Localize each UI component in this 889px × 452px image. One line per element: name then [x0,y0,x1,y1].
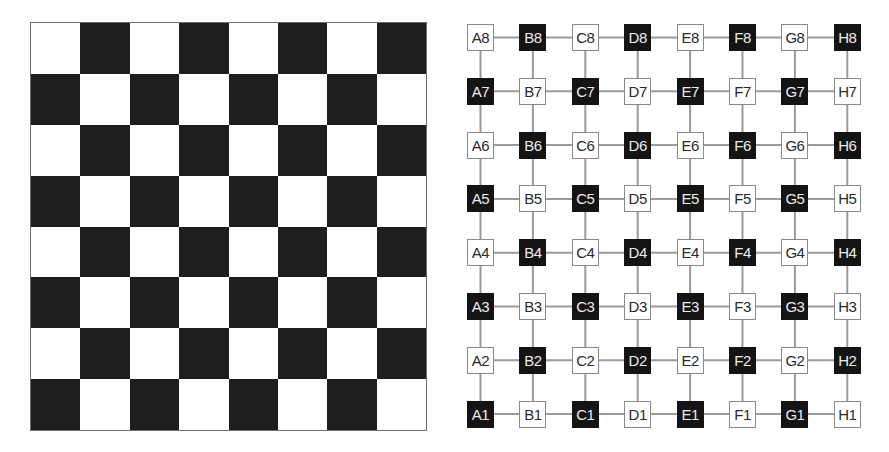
graph-node-b6: B6 [519,132,546,159]
board-square-d6 [179,125,228,176]
board-square-h1 [377,379,426,430]
graph-node-c5: C5 [572,185,599,212]
board-square-f6 [278,125,327,176]
node-label: C7 [576,84,594,99]
graph-node-h8: H8 [834,24,861,51]
board-square-h6 [377,125,426,176]
board-square-g8 [327,23,376,74]
node-label: D8 [629,30,647,45]
graph-node-g7: G7 [781,78,808,105]
graph-node-d5: D5 [624,185,651,212]
board-square-b7 [80,74,129,125]
graph-node-h1: H1 [834,401,861,428]
board-square-b2 [80,328,129,379]
board-square-e3 [229,277,278,328]
board-square-e5 [229,176,278,227]
node-label: C1 [576,407,594,422]
board-square-g1 [327,379,376,430]
board-square-e1 [229,379,278,430]
node-label: A2 [472,353,489,368]
graph-node-g5: G5 [781,185,808,212]
node-label: C5 [576,191,594,206]
node-label: D5 [629,191,647,206]
graph-node-f4: F4 [729,239,756,266]
node-label: B7 [524,84,541,99]
graph-node-a3: A3 [467,293,494,320]
graph-node-a4: A4 [467,239,494,266]
board-square-f4 [278,227,327,278]
board-square-h5 [377,176,426,227]
board-square-b8 [80,23,129,74]
graph-node-f3: F3 [729,293,756,320]
graph-node-c3: C3 [572,293,599,320]
node-label: D7 [629,84,647,99]
node-label: C2 [576,353,594,368]
board-square-c8 [130,23,179,74]
graph-node-a8: A8 [467,24,494,51]
board-square-e6 [229,125,278,176]
board-square-a2 [31,328,80,379]
node-label: A3 [472,299,489,314]
node-label: F3 [734,299,751,314]
graph-node-g3: G3 [781,293,808,320]
graph-node-h2: H2 [834,347,861,374]
node-label: H5 [838,191,856,206]
graph-node-a5: A5 [467,185,494,212]
graph-node-e5: E5 [677,185,704,212]
node-label: E4 [681,245,698,260]
graph-node-g8: G8 [781,24,808,51]
node-label: D2 [629,353,647,368]
graph-node-g1: G1 [781,401,808,428]
node-label: B2 [524,353,541,368]
square-adjacency-graph: A8B8C8D8E8F8G8H8A7B7C7D7E7F7G7H7A6B6C6D6… [455,0,889,452]
node-label: H4 [838,245,856,260]
node-label: B4 [524,245,541,260]
node-label: G2 [785,353,804,368]
checkerboard [30,22,427,431]
node-label: E7 [681,84,698,99]
node-label: D1 [629,407,647,422]
board-square-f8 [278,23,327,74]
node-label: B3 [524,299,541,314]
node-label: B5 [524,191,541,206]
board-square-c1 [130,379,179,430]
node-label: A8 [472,30,489,45]
node-label: A1 [472,407,489,422]
node-label: F4 [734,245,751,260]
board-square-a3 [31,277,80,328]
graph-node-g4: G4 [781,239,808,266]
node-label: H3 [838,299,856,314]
board-square-c7 [130,74,179,125]
node-label: H8 [838,30,856,45]
node-label: B8 [524,30,541,45]
board-square-a4 [31,227,80,278]
graph-node-a2: A2 [467,347,494,374]
board-square-c3 [130,277,179,328]
node-label: C4 [576,245,594,260]
board-square-c2 [130,328,179,379]
node-label: C8 [576,30,594,45]
board-square-f7 [278,74,327,125]
node-label: F7 [734,84,751,99]
node-label: E6 [681,138,698,153]
node-label: D6 [629,138,647,153]
node-label: G8 [785,30,804,45]
board-square-b4 [80,227,129,278]
node-label: D3 [629,299,647,314]
graph-node-d8: D8 [624,24,651,51]
graph-node-e8: E8 [677,24,704,51]
board-square-d5 [179,176,228,227]
board-square-d1 [179,379,228,430]
graph-node-e1: E1 [677,401,704,428]
board-square-a8 [31,23,80,74]
graph-node-h7: H7 [834,78,861,105]
graph-node-e6: E6 [677,132,704,159]
board-square-d7 [179,74,228,125]
graph-node-h3: H3 [834,293,861,320]
graph-node-g2: G2 [781,347,808,374]
graph-node-d3: D3 [624,293,651,320]
node-label: H6 [838,138,856,153]
graph-node-e7: E7 [677,78,704,105]
graph-node-a6: A6 [467,132,494,159]
graph-node-b7: B7 [519,78,546,105]
